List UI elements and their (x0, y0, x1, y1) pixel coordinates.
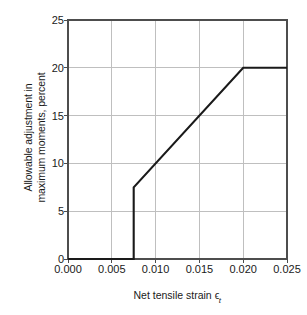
x-tick-label: 0.020 (229, 264, 257, 275)
epsilon-subscript: t (219, 296, 221, 305)
x-tick-label: 0.005 (98, 264, 126, 275)
x-tick-label: 0.000 (54, 264, 82, 275)
x-axis-title: Net tensile strain ϵt (68, 289, 287, 306)
x-tick-label: 0.010 (142, 264, 170, 275)
x-tick-label: 0.025 (273, 264, 301, 275)
x-axis-tick-labels: 0.000 0.005 0.010 0.015 0.020 0.025 (0, 0, 307, 315)
x-tick-label: 0.015 (186, 264, 214, 275)
x-axis-title-text: Net tensile strain (134, 289, 212, 301)
chart-figure: Allowable adjustment in maximum moments,… (0, 0, 307, 315)
